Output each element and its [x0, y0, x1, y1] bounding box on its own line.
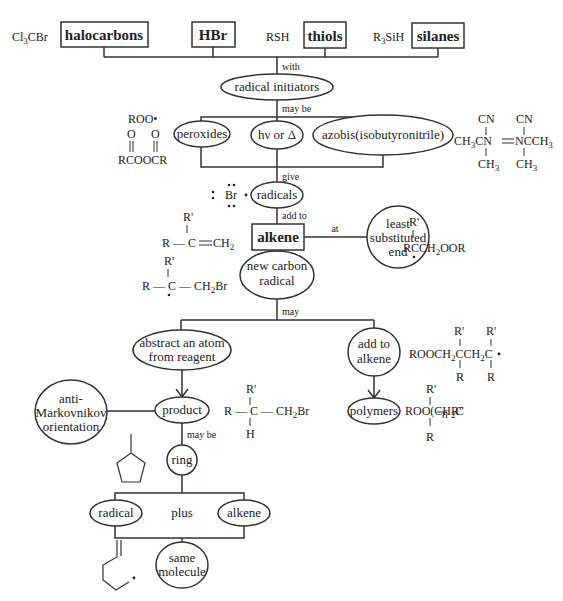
svg-text:CH3CN: CH3CN	[454, 134, 492, 150]
svg-text:Br: Br	[225, 188, 237, 202]
thiols-label: thiols	[307, 28, 342, 44]
molecule-label: molecule	[158, 564, 206, 579]
cyclopentyl-struct	[117, 434, 145, 482]
peroxides-label: peroxides	[177, 126, 228, 141]
abstract-label-2: from reagent	[149, 349, 216, 364]
silane-formula: R3SiH	[373, 30, 405, 46]
svg-text:R': R'	[164, 254, 174, 268]
orientation-label: orientation	[43, 419, 100, 434]
halocarbon-formula: Cl3CBr	[12, 30, 48, 46]
edge-with: with	[282, 61, 300, 72]
svg-text:R: R	[487, 370, 495, 384]
svg-text:R': R'	[454, 324, 464, 338]
azobis-label: azobis(isobutyronitrile)	[322, 127, 444, 142]
svg-text:R': R'	[486, 324, 496, 338]
svg-text:RCOOCR: RCOOCR	[118, 153, 167, 167]
svg-text:ROOCH2CCH2C: ROOCH2CCH2C	[409, 347, 493, 363]
aibn-struct: CN CN CH3CN NCCH3 CH3 CH3	[454, 112, 553, 173]
bromine-radical-struct: Br	[212, 184, 248, 208]
svg-text:CN: CN	[516, 112, 533, 126]
alkene-label: alkene	[357, 351, 391, 366]
silanes-label: silanes	[417, 28, 460, 44]
edge-add-to: add to	[282, 210, 307, 221]
svg-text:R: R	[426, 430, 434, 444]
ring-label: ring	[172, 452, 193, 467]
svg-text:R": R"	[451, 404, 464, 418]
radical-initiators-label: radical initiators	[235, 79, 320, 94]
abstract-label-1: abstract an atom	[139, 335, 224, 350]
halocarbons-label: halocarbons	[65, 27, 144, 43]
svg-text:NCCH3: NCCH3	[515, 134, 553, 150]
peroxy-radical-struct: ROO•	[128, 112, 158, 126]
edge-may: may	[282, 306, 299, 317]
svg-text:RCCH2OOR: RCCH2OOR	[403, 241, 466, 257]
hv-delta-label: hν or Δ	[258, 127, 296, 142]
polymer-struct: R' ROO(CH2C n R" R	[405, 382, 464, 444]
edge-may-be-ring: may be	[187, 429, 217, 440]
anti-label: anti-	[59, 391, 83, 406]
least-label: least	[386, 216, 410, 231]
svg-text:H: H	[246, 427, 255, 441]
hbr-label: HBr	[199, 27, 228, 43]
product-struct: R' R — C — CH2Br H	[224, 382, 309, 441]
reagent-connector	[104, 47, 438, 57]
radical-label: radical	[259, 273, 295, 288]
same-label: same	[169, 550, 196, 565]
radical-node-label: radical	[98, 505, 134, 520]
arrow-to-product	[176, 370, 188, 397]
arrow-to-polymers	[368, 376, 380, 398]
thiol-formula: RSH	[266, 30, 290, 44]
polymers-label: polymers	[350, 403, 398, 418]
svg-text:O: O	[151, 127, 160, 141]
alkene-box-label: alkene	[257, 229, 299, 245]
radicals-label: radicals	[257, 187, 297, 202]
svg-text:CH2: CH2	[213, 236, 234, 252]
svg-text:O: O	[127, 127, 136, 141]
svg-text:R — C — CH2Br: R — C — CH2Br	[142, 279, 227, 295]
svg-text:R': R'	[246, 382, 256, 396]
hexenyl-radical-struct	[103, 540, 135, 590]
new-carbon-label: new carbon	[247, 258, 308, 273]
svg-text:R: R	[456, 370, 464, 384]
radical-addition-concept-map: Cl3CBr halocarbons HBr RSH thiols R3SiH …	[0, 0, 563, 601]
bromoalkyl-radical-struct: R' R — C — CH2Br	[142, 254, 227, 296]
plus-label: plus	[171, 505, 193, 520]
svg-text:CH3: CH3	[478, 157, 500, 173]
alkene-node-label: alkene	[227, 505, 261, 520]
svg-text:R — C: R — C	[162, 236, 196, 250]
svg-text:CH3: CH3	[516, 157, 538, 173]
svg-text:R — C — CH2Br: R — C — CH2Br	[224, 404, 309, 420]
svg-text:n: n	[442, 407, 448, 421]
edge-give: give	[282, 171, 300, 182]
add-to-label: add to	[358, 336, 390, 351]
edge-may-be: may be	[282, 103, 312, 114]
product-label: product	[162, 402, 202, 417]
svg-text:R': R'	[409, 215, 419, 229]
alkene-struct: R' R — C CH2	[162, 210, 234, 252]
svg-text:R': R'	[426, 382, 436, 396]
svg-text:R': R'	[183, 210, 193, 224]
dimer-radical-struct: R' R' ROOCH2CCH2C R R	[409, 324, 500, 384]
diacyl-peroxide-struct: O O RCOOCR	[118, 127, 167, 167]
edge-at: at	[331, 223, 338, 234]
connector-may	[181, 299, 374, 330]
svg-text:CN: CN	[478, 112, 495, 126]
markovnikov-label: Markovnikov	[36, 405, 107, 420]
